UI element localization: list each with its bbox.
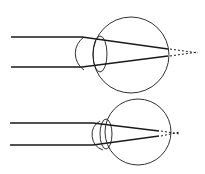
- bottom-eye-panel: [10, 99, 180, 165]
- upper-ray: [10, 123, 159, 131]
- lower-ray: [10, 136, 159, 145]
- lens-ellipse: [93, 36, 107, 72]
- lower-ray: [11, 56, 168, 67]
- lower-ray-extension: [170, 52, 198, 56]
- upper-ray: [11, 37, 168, 49]
- eye-refraction-diagram: [0, 0, 205, 174]
- eyeball-circle: [93, 17, 169, 93]
- top-eye-panel: [11, 17, 198, 93]
- cornea-arc: [75, 37, 84, 70]
- eyeball-circle: [105, 99, 171, 165]
